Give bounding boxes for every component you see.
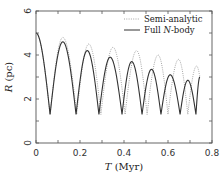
x-tick-label: 0.6 — [161, 148, 176, 158]
y-tick-label: 4 — [23, 52, 33, 58]
plot-curves — [36, 33, 200, 114]
x-tick-label: 0.2 — [73, 148, 87, 158]
x-tick-label: 0 — [33, 148, 39, 158]
legend-label-semi-analytic: Semi-analytic — [144, 14, 203, 24]
y-tick-label: 2 — [23, 96, 33, 102]
x-axis-label: T (Myr) — [105, 161, 143, 172]
y-tick-label: 0 — [23, 140, 33, 146]
x-tick-label: 0.4 — [117, 148, 132, 158]
series-full-n-body — [36, 33, 200, 114]
x-tick-labels: 00.20.40.60.8 — [33, 148, 219, 158]
x-tick-label: 0.8 — [205, 148, 220, 158]
y-tick-labels: 0246 — [23, 8, 33, 146]
legend: Semi-analytic Full N-body — [124, 14, 203, 35]
chart-figure: 00.20.40.60.8 0246 T (Myr) R (pc) Semi-a… — [0, 0, 220, 181]
y-tick-label: 6 — [23, 8, 33, 14]
y-axis-label: R (pc) — [3, 62, 14, 94]
legend-label-full-nbody: Full N-body — [144, 25, 195, 35]
